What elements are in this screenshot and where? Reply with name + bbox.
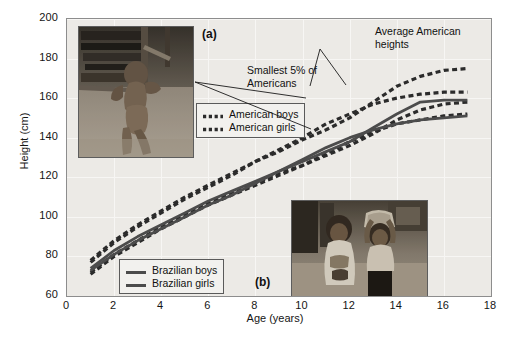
plot-area: (a) (b) American boysAmerican girls Braz… [66,18,492,297]
x-tick-4: 4 [148,299,172,311]
x-tick-6: 6 [195,299,219,311]
y-tick-180: 180 [28,51,58,63]
annotation-leader-lines [67,19,491,296]
x-tick-2: 2 [101,299,125,311]
x-tick-18: 18 [478,299,502,311]
y-tick-120: 120 [28,169,58,181]
x-tick-16: 16 [431,299,455,311]
y-tick-80: 80 [28,248,58,260]
x-axis-label: Age (years) [200,312,350,324]
x-tick-14: 14 [384,299,408,311]
y-tick-100: 100 [28,209,58,221]
x-tick-0: 0 [54,299,78,311]
y-tick-200: 200 [28,11,58,23]
y-tick-140: 140 [28,130,58,142]
y-tick-160: 160 [28,90,58,102]
x-tick-8: 8 [242,299,266,311]
gridline-v [491,19,492,296]
growth-chart-figure: Height (cm) Age (years) 6080100120140160… [0,0,509,341]
x-tick-12: 12 [337,299,361,311]
x-tick-10: 10 [290,299,314,311]
